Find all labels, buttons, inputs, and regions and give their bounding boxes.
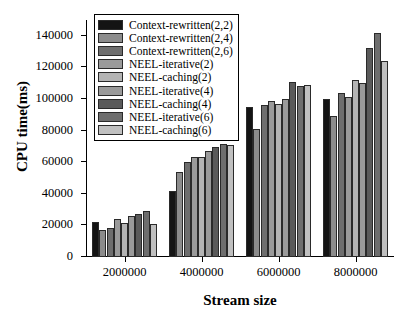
legend-swatch (98, 99, 123, 109)
legend-label: NEEL-iterative(4) (129, 85, 213, 97)
x-tick-label: 4000000 (180, 265, 224, 280)
bar (304, 85, 311, 257)
bar (220, 144, 227, 257)
bar (261, 105, 268, 257)
bar (374, 33, 381, 257)
legend-item: NEEL-iterative(6) (98, 110, 233, 123)
bar (114, 219, 121, 257)
legend-label: NEEL-caching(2) (129, 71, 211, 83)
y-tick-label: 0 (67, 249, 73, 264)
bar (198, 157, 205, 257)
legend-swatch (98, 125, 123, 135)
chart-legend: Context-rewritten(2,2)Context-rewritten(… (94, 14, 239, 141)
bar (99, 230, 106, 257)
bar (345, 97, 352, 257)
legend-item: NEEL-caching(2) (98, 71, 233, 84)
bar (92, 222, 99, 257)
bar (205, 151, 212, 257)
legend-swatch (98, 33, 123, 43)
bar (381, 61, 388, 257)
bar-chart: CPU time(ms) 020000400006000080000100000… (0, 0, 417, 322)
bar (150, 224, 157, 257)
x-tick: 6000000 (279, 257, 280, 262)
x-tick: 4000000 (202, 257, 203, 262)
legend-item: NEEL-iterative(4) (98, 84, 233, 97)
bar (297, 86, 304, 257)
legend-label: NEEL-caching(6) (129, 124, 211, 136)
legend-item: NEEL-caching(4) (98, 97, 233, 110)
legend-swatch (98, 59, 123, 69)
bar (176, 172, 183, 257)
bar (227, 145, 234, 257)
legend-label: NEEL-iterative(6) (129, 111, 213, 123)
bar (246, 107, 253, 257)
bar (330, 116, 337, 257)
legend-swatch (98, 86, 123, 96)
y-axis-title: CPU time(ms) (14, 47, 31, 207)
bar (191, 157, 198, 257)
x-tick-label: 8000000 (334, 265, 378, 280)
x-tick-label: 2000000 (103, 265, 147, 280)
bar (323, 99, 330, 257)
legend-label: Context-rewritten(2,6) (129, 45, 233, 57)
y-tick-label: 120000 (36, 59, 74, 74)
legend-item: NEEL-caching(6) (98, 124, 233, 137)
bar (289, 82, 296, 257)
legend-label: Context-rewritten(2,4) (129, 32, 233, 44)
x-tick: 8000000 (356, 257, 357, 262)
bar (338, 93, 345, 257)
x-axis-title: Stream size (86, 292, 394, 309)
bar-group (317, 20, 394, 257)
legend-label: NEEL-iterative(2) (129, 58, 213, 70)
x-tick-label: 6000000 (257, 265, 301, 280)
y-tick-label: 100000 (36, 91, 74, 106)
legend-swatch (98, 112, 123, 122)
legend-item: Context-rewritten(2,6) (98, 44, 233, 57)
legend-item: Context-rewritten(2,2) (98, 18, 233, 31)
bar (135, 214, 142, 257)
y-tick-label: 40000 (42, 185, 73, 200)
bar (366, 48, 373, 257)
bar (184, 162, 191, 257)
bar (143, 211, 150, 257)
y-tick-label: 80000 (42, 122, 73, 137)
legend-swatch (98, 72, 123, 82)
y-tick-label: 60000 (42, 154, 73, 169)
bar (212, 147, 219, 257)
bar-group (240, 20, 317, 257)
legend-label: NEEL-caching(4) (129, 98, 211, 110)
y-tick-label: 140000 (36, 27, 74, 42)
bar (169, 191, 176, 257)
bar (359, 83, 366, 257)
y-tick-label: 20000 (42, 217, 73, 232)
bar (352, 80, 359, 257)
bar (107, 228, 114, 257)
legend-item: Context-rewritten(2,4) (98, 31, 233, 44)
legend-item: NEEL-iterative(2) (98, 58, 233, 71)
bar (128, 216, 135, 257)
bar (275, 104, 282, 257)
legend-swatch (98, 46, 123, 56)
legend-label: Context-rewritten(2,2) (129, 19, 233, 31)
bar (282, 99, 289, 257)
legend-swatch (98, 20, 123, 30)
bar (268, 101, 275, 257)
bar (253, 129, 260, 257)
bar (121, 223, 128, 257)
x-tick: 2000000 (125, 257, 126, 262)
